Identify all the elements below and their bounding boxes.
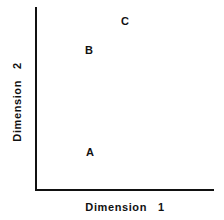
- point-label-c: C: [121, 16, 129, 27]
- dimension-plot: A B C Dimension 1 Dimension 2: [0, 0, 224, 220]
- point-label-a: A: [86, 147, 94, 158]
- x-axis-title: Dimension 1: [85, 201, 164, 213]
- point-label-b: B: [85, 45, 93, 56]
- x-axis-line: [35, 189, 214, 191]
- y-axis-line: [35, 7, 37, 191]
- y-axis-title: Dimension 2: [11, 62, 23, 141]
